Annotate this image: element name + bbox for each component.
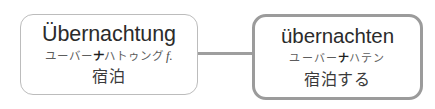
- reading-target-suffix: ハテン: [349, 51, 385, 66]
- reading-target: ユーバー ナ ハテン: [289, 51, 385, 66]
- gloss-target: 宿泊する: [304, 70, 371, 90]
- reading-source-accent: ナ: [93, 49, 104, 64]
- headword-source: Übernachtung: [42, 22, 176, 46]
- reading-source-suffix: ハトゥング: [104, 49, 164, 64]
- reading-target-prefix: ユーバー: [289, 51, 337, 66]
- reading-source: ユーバー ナ ハトゥング f.: [45, 49, 172, 64]
- node-source-noun[interactable]: Übernachtung ユーバー ナ ハトゥング f. 宿泊: [20, 14, 198, 95]
- reading-target-accent: ナ: [338, 51, 349, 66]
- gloss-source: 宿泊: [92, 67, 126, 87]
- headword-target: übernachten: [281, 24, 394, 47]
- word-relation-diagram: Übernachtung ユーバー ナ ハトゥング f. 宿泊 übernach…: [0, 0, 435, 109]
- connector-line: [196, 52, 254, 55]
- part-of-speech-source: f.: [166, 49, 173, 64]
- reading-source-prefix: ユーバー: [45, 49, 93, 64]
- node-target-verb[interactable]: übernachten ユーバー ナ ハテン 宿泊する: [252, 14, 423, 100]
